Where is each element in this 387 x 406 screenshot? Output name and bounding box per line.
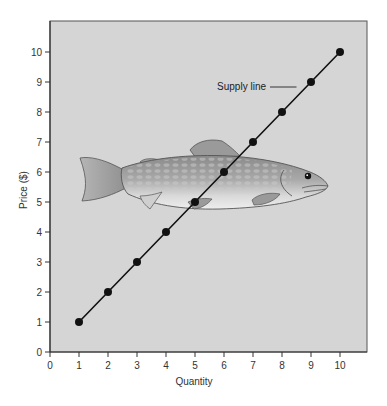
x-tick-label: 5 <box>192 360 198 371</box>
data-point <box>220 168 228 176</box>
data-point <box>336 48 344 56</box>
x-tick-label: 8 <box>279 360 285 371</box>
y-tick-label: 9 <box>36 77 42 88</box>
x-tick-label: 1 <box>76 360 82 371</box>
data-point <box>162 228 170 236</box>
x-tick-label: 2 <box>105 360 111 371</box>
fish-eye-highlight <box>306 174 308 176</box>
x-tick-label: 9 <box>308 360 314 371</box>
y-tick-label: 6 <box>36 167 42 178</box>
y-tick-label: 0 <box>36 347 42 358</box>
y-axis-title: Price ($) <box>18 171 29 209</box>
y-tick-label: 1 <box>36 317 42 328</box>
y-tick-label: 3 <box>36 257 42 268</box>
y-tick-label: 7 <box>36 137 42 148</box>
data-point <box>278 108 286 116</box>
y-tick-label: 5 <box>36 197 42 208</box>
y-tick-label: 2 <box>36 287 42 298</box>
x-ticks: 012345678910 <box>47 352 346 371</box>
y-ticks: 012345678910 <box>31 47 50 358</box>
y-tick-label: 4 <box>36 227 42 238</box>
x-tick-label: 6 <box>221 360 227 371</box>
x-tick-label: 0 <box>47 360 53 371</box>
supply-chart: 012345678910 012345678910 Supply line Qu… <box>0 0 387 406</box>
y-tick-label: 8 <box>36 107 42 118</box>
x-tick-label: 3 <box>134 360 140 371</box>
x-axis-title: Quantity <box>175 376 212 387</box>
y-tick-label: 10 <box>31 47 43 58</box>
fish-eye <box>305 173 311 179</box>
data-point <box>307 78 315 86</box>
data-point <box>249 138 257 146</box>
data-point <box>104 288 112 296</box>
data-point <box>75 318 83 326</box>
x-tick-label: 4 <box>163 360 169 371</box>
data-point <box>133 258 141 266</box>
x-tick-label: 7 <box>250 360 256 371</box>
data-point <box>191 198 199 206</box>
x-tick-label: 10 <box>334 360 346 371</box>
supply-line-label: Supply line <box>217 81 266 92</box>
